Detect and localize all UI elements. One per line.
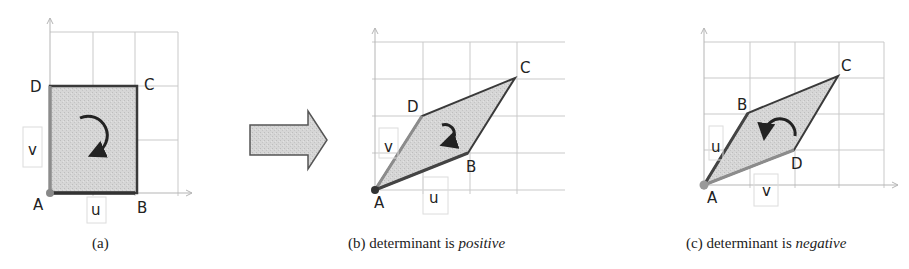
parallelogram-region-positive <box>375 78 515 190</box>
vertex-label-c: C <box>144 76 154 94</box>
vertex-label-b: B <box>466 158 476 176</box>
vector-label-u: u <box>91 201 101 219</box>
panel-b: D C A B v u (b) determinant is positive <box>348 28 565 252</box>
vertex-label-b: B <box>737 96 747 114</box>
vertex-label-b: B <box>137 199 147 217</box>
vector-label-v: v <box>762 182 771 200</box>
parallelogram-region-negative <box>704 76 838 185</box>
vector-label-v: v <box>384 138 393 156</box>
vector-label-u: u <box>711 138 721 156</box>
right-arrow-icon <box>250 111 327 169</box>
vertex-label-c: C <box>520 59 530 77</box>
panel-c: B C A D u v (c) determinant is negative <box>686 28 898 252</box>
vertex-label-c: C <box>841 57 851 75</box>
vertex-label-d: D <box>30 78 42 96</box>
vertex-label-a: A <box>33 196 44 214</box>
caption-a: (a) <box>92 235 109 252</box>
origin-point-a <box>46 189 54 197</box>
caption-c: (c) determinant is negative <box>686 235 847 252</box>
vector-label-v: v <box>28 141 37 159</box>
vertex-label-d: D <box>407 98 419 116</box>
vertex-label-a: A <box>707 189 718 207</box>
square-region <box>50 86 137 193</box>
origin-point-b <box>371 186 379 194</box>
vertex-label-a: A <box>374 194 385 212</box>
panel-a: D C A B v u (a) <box>23 18 192 252</box>
vector-label-u: u <box>429 189 439 207</box>
vertex-label-d: D <box>791 155 803 173</box>
caption-b: (b) determinant is positive <box>348 235 505 252</box>
